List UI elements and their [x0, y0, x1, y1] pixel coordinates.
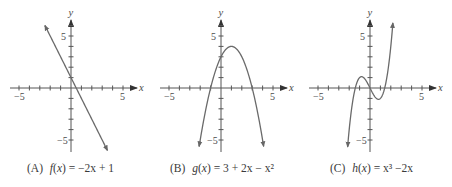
caption-a-label: (A): [27, 162, 43, 174]
y-axis-label: y: [68, 7, 74, 18]
x-tick-label-pos: 5: [419, 91, 424, 102]
y-tick-label-pos: 5: [360, 31, 365, 42]
curve-start-arrow: [199, 143, 200, 146]
x-tick-label-neg: −5: [164, 91, 175, 102]
y-axis-label: y: [218, 7, 224, 18]
caption-c-rhs: = x³ −2x: [374, 162, 413, 174]
graph-c: −555−5xy: [309, 7, 443, 152]
caption-b: (B) g(x) = 3 + 2x − x²: [170, 162, 274, 174]
caption-b-label: (B): [170, 162, 185, 174]
caption-a-rhs: = −2x + 1: [69, 162, 114, 174]
x-axis-label: x: [138, 82, 144, 93]
caption-a-fn: f: [50, 162, 53, 174]
graph-b: −555−5xy: [160, 7, 294, 152]
x-axis-label: x: [288, 82, 294, 93]
caption-c-label: (C): [330, 162, 345, 174]
x-tick-label-neg: −5: [313, 91, 324, 102]
caption-b-var: x: [202, 162, 207, 174]
caption-b-rhs: = 3 + 2x − x²: [214, 162, 274, 174]
caption-b-fn: g: [192, 162, 198, 174]
caption-c: (C) h(x) = x³ −2x: [330, 162, 413, 174]
y-tick-label-neg: −5: [356, 135, 367, 146]
y-tick-label-neg: −5: [207, 135, 218, 146]
x-tick-label-pos: 5: [270, 91, 275, 102]
x-tick-label-pos: 5: [120, 91, 125, 102]
caption-c-fn: h: [352, 162, 358, 174]
y-tick-label-pos: 5: [61, 31, 66, 42]
y-tick-label-neg: −5: [57, 135, 68, 146]
x-tick-label-neg: −5: [14, 91, 25, 102]
x-axis-label: x: [437, 82, 443, 93]
function-curve: [199, 46, 263, 146]
y-axis-label: y: [367, 7, 373, 18]
caption-a-var: x: [57, 162, 62, 174]
caption-c-var: x: [362, 162, 367, 174]
graph-a: −555−5xy: [10, 7, 144, 152]
y-tick-label-pos: 5: [211, 31, 216, 42]
caption-a: (A) f(x) = −2x + 1: [27, 162, 114, 174]
graphs-figure: −555−5xy−555−5xy−555−5xy: [0, 0, 452, 187]
curve-start-arrow: [45, 26, 46, 27]
